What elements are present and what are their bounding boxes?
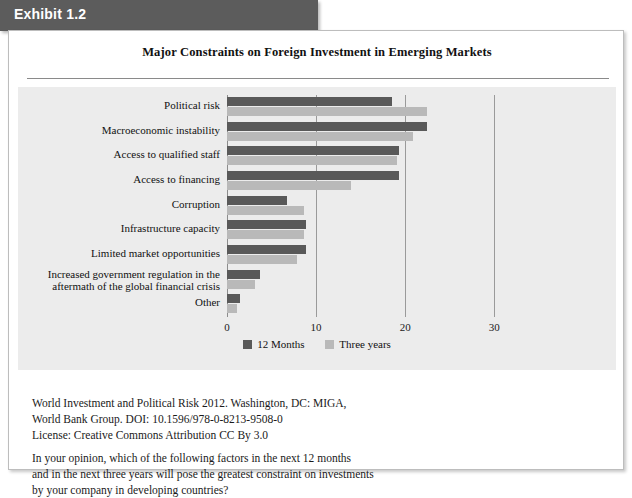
x-tick-label-0: 0 [224, 321, 230, 333]
question-line: and in the next three years will pose th… [32, 466, 592, 482]
legend-label-12-months: 12 Months [257, 338, 304, 350]
category-label: Macroeconomic instability [102, 124, 220, 137]
bar-three-years [227, 132, 413, 141]
category-label: Corruption [172, 198, 220, 211]
category-label: Limited market opportunities [91, 247, 220, 260]
margin-watermark [1, 404, 13, 476]
exhibit-card: Major Constraints on Foreign Investment … [8, 30, 624, 470]
x-tick-label-10: 10 [311, 321, 322, 333]
bar-three-years [227, 280, 255, 289]
question-line: by your company in developing countries? [32, 482, 592, 498]
chart-row: Limited market opportunities [227, 243, 512, 268]
bar-12-months [227, 220, 306, 229]
bar-12-months [227, 245, 306, 254]
bar-three-years [227, 304, 237, 313]
legend-swatch-12-months [243, 340, 252, 349]
category-label: Access to financing [133, 173, 220, 186]
bar-three-years [227, 181, 351, 190]
chart-row: Access to qualified staff [227, 144, 512, 169]
chart-row: Other [227, 292, 512, 317]
category-label: Increased government regulation in the a… [28, 268, 220, 293]
x-tick-label-30: 30 [489, 321, 500, 333]
title-divider [27, 78, 609, 79]
legend-label-three-years: Three years [339, 338, 391, 350]
chart-row: Infrastructure capacity [227, 218, 512, 243]
chart-row: Macroeconomic instability [227, 120, 512, 145]
category-label: Infrastructure capacity [121, 222, 220, 235]
bar-three-years [227, 230, 304, 239]
exhibit-banner: Exhibit 1.2 [0, 0, 318, 31]
bar-three-years [227, 206, 304, 215]
x-tick-label-20: 20 [400, 321, 411, 333]
category-label: Political risk [164, 99, 220, 112]
survey-question: In your opinion, which of the following … [32, 450, 592, 498]
chart-legend: 12 Months Three years [18, 338, 616, 350]
exhibit-banner-label: Exhibit 1.2 [14, 6, 86, 22]
chart-title: Major Constraints on Foreign Investment … [9, 45, 625, 60]
chart-plot-panel: 0102030Political riskMacroeconomic insta… [18, 87, 616, 370]
legend-swatch-three-years [325, 340, 334, 349]
category-label: Access to qualified staff [114, 148, 220, 161]
legend-item-three-years: Three years [325, 338, 391, 350]
source-citation: World Investment and Political Risk 2012… [32, 395, 592, 443]
chart-row: Increased government regulation in the a… [227, 268, 512, 293]
category-label: Other [195, 296, 220, 309]
question-line: In your opinion, which of the following … [32, 450, 592, 466]
chart-plot-area: 0102030Political riskMacroeconomic insta… [227, 95, 512, 317]
bar-12-months [227, 196, 287, 205]
chart-row: Political risk [227, 95, 512, 120]
chart-row: Corruption [227, 194, 512, 219]
bar-12-months [227, 270, 260, 279]
source-line: World Investment and Political Risk 2012… [32, 395, 592, 411]
chart-row: Access to financing [227, 169, 512, 194]
bar-three-years [227, 107, 427, 116]
legend-item-12-months: 12 Months [243, 338, 304, 350]
bar-12-months [227, 171, 399, 180]
source-line: License: Creative Commons Attribution CC… [32, 427, 592, 443]
bar-12-months [227, 146, 399, 155]
bar-three-years [227, 156, 397, 165]
bar-12-months [227, 97, 392, 106]
source-line: World Bank Group. DOI: 10.1596/978-0-821… [32, 411, 592, 427]
bar-12-months [227, 122, 427, 131]
bar-three-years [227, 255, 297, 264]
bar-12-months [227, 294, 240, 303]
